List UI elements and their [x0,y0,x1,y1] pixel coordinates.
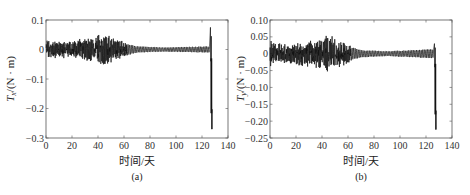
y-tick-label: −0.25 [245,133,268,144]
y-tick-label: −0.2 [26,103,44,114]
x-tick-label: 40 [317,140,327,151]
y-axis-label: Ty/(N · m) [234,56,248,102]
y-tick-label: 0 [263,48,268,59]
x-tick-label: 20 [67,140,77,151]
x-tick-label: 120 [419,140,434,151]
panel-caption: (b) [355,171,367,183]
x-axis-label: 时间/天 [119,155,155,167]
x-tick-label: 40 [93,140,103,151]
y-tick-label: −0.15 [245,99,268,110]
y-tick-label: −0.05 [245,65,268,76]
y-tick-label: −0.1 [26,74,44,85]
y-axis-label: Tx/(N · m) [4,56,18,102]
figure: 0204060801001201400.10−0.1−0.2−0.3时间/天(a… [0,0,470,195]
chart-panel-b: 0204060801001201400.100.050−0.05−0.10−0.… [234,15,460,184]
x-tick-label: 120 [195,140,210,151]
x-tick-label: 140 [445,140,460,151]
x-tick-label: 80 [145,140,155,151]
plot-frame [270,20,452,138]
y-tick-label: 0.10 [251,15,269,26]
signal-line [270,36,436,130]
x-tick-label: 0 [268,140,273,151]
panel-caption: (a) [131,171,142,183]
x-tick-label: 80 [369,140,379,151]
x-tick-label: 100 [393,140,408,151]
y-tick-label: −0.20 [245,116,268,127]
x-tick-label: 20 [291,140,301,151]
x-tick-label: 140 [221,140,236,151]
y-tick-label: −0.10 [245,82,268,93]
x-tick-label: 60 [343,140,353,151]
y-tick-label: −0.3 [26,133,44,144]
plot-frame [46,20,228,138]
x-tick-label: 100 [169,140,184,151]
y-tick-label: 0.1 [32,15,45,26]
x-tick-label: 0 [44,140,49,151]
signal-line [46,27,212,129]
x-tick-label: 60 [119,140,129,151]
chart-panel-a: 0204060801001201400.10−0.1−0.2−0.3时间/天(a… [4,15,236,184]
y-tick-label: 0 [39,44,44,55]
y-tick-label: 0.05 [251,31,269,42]
x-axis-label: 时间/天 [343,155,379,167]
